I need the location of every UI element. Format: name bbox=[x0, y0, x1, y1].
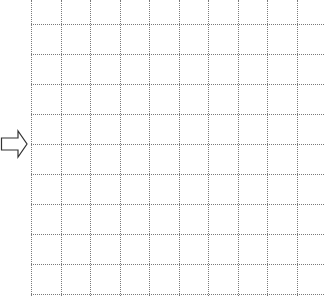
grid-vertical-line bbox=[238, 0, 239, 296]
grid-vertical-line bbox=[179, 0, 180, 296]
grid-horizontal-line bbox=[31, 264, 324, 265]
grid-horizontal-line bbox=[31, 24, 324, 25]
grid-horizontal-line bbox=[31, 114, 324, 115]
grid-vertical-line bbox=[31, 0, 32, 296]
grid-vertical-line bbox=[61, 0, 62, 296]
grid-vertical-line bbox=[267, 0, 268, 296]
grid-vertical-line bbox=[120, 0, 121, 296]
grid-horizontal-line bbox=[31, 204, 324, 205]
grid-horizontal-line bbox=[31, 84, 324, 85]
dotted-grid-diagram bbox=[0, 0, 324, 307]
grid-vertical-line bbox=[297, 0, 298, 296]
grid-horizontal-line bbox=[31, 174, 324, 175]
grid-horizontal-line bbox=[31, 54, 324, 55]
grid-horizontal-line bbox=[31, 234, 324, 235]
grid-horizontal-line bbox=[31, 144, 324, 145]
right-arrow-icon bbox=[0, 128, 30, 160]
grid-vertical-line bbox=[208, 0, 209, 296]
grid-vertical-line bbox=[90, 0, 91, 296]
grid-vertical-line bbox=[149, 0, 150, 296]
grid-horizontal-line bbox=[31, 294, 324, 295]
